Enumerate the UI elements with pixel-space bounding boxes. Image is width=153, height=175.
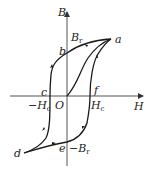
b-axis-label: B: [58, 7, 66, 18]
point-b-label: b: [59, 46, 66, 57]
point-a-label: a: [115, 34, 122, 45]
initial-magnetization-curve: [67, 39, 111, 96]
direction-arrow-icon: [84, 44, 88, 47]
point-e-label: e: [59, 143, 66, 154]
coercivity-negative-label: −Hc: [28, 100, 51, 113]
point-d-label: d: [14, 148, 21, 159]
remanence-positive-label: Br: [71, 32, 82, 45]
remanence-negative-label: −Br: [69, 143, 90, 156]
point-c-label: c: [41, 87, 47, 98]
origin-label: O: [55, 100, 64, 111]
h-axis-label: H: [134, 101, 144, 112]
direction-arrow-icon: [42, 127, 45, 131]
point-f-label: f: [94, 85, 98, 96]
coercivity-positive-label: Hc: [91, 100, 105, 113]
hysteresis-diagram: B H O a b c d e f Br −Br Hc −Hc: [0, 0, 153, 175]
